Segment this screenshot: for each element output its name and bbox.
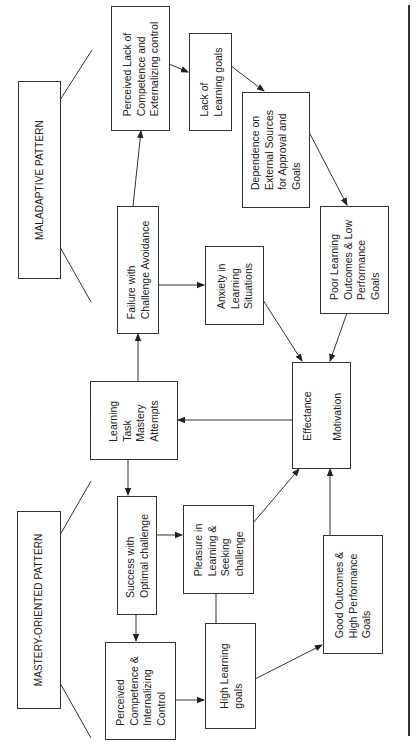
node-good-outcomes-text: Good Outcomes & High Performance Goals bbox=[333, 551, 374, 637]
node-perceived-competence-text: Perceived Competence & Internalizing Con… bbox=[114, 656, 168, 725]
arrow-anxiety-to-effectance bbox=[263, 300, 302, 361]
node-good-outcomes: Good Outcomes & High Performance Goals bbox=[323, 535, 383, 654]
node-anxiety: Anxiety in Learning Situations bbox=[205, 246, 264, 325]
arrow-high-goals-to-good bbox=[255, 645, 322, 679]
mastery-pattern-label: MASTERY-ORIENTED PATTERN bbox=[17, 511, 61, 709]
node-effectance-text: Effectance Motivation bbox=[292, 391, 351, 440]
node-perceived-competence: Perceived Competence & Internalizing Con… bbox=[105, 642, 176, 740]
arrow-lack-goals-to-dependence bbox=[231, 66, 264, 91]
page-edge-rule bbox=[408, 5, 410, 736]
node-dependence: Dependence on External Sources for Appro… bbox=[242, 92, 310, 208]
arrow-dependence-to-poor bbox=[309, 132, 347, 205]
maladaptive-callout-top bbox=[60, 50, 92, 100]
node-perceived-lack: Perceived Lack of Competence and Externa… bbox=[111, 6, 170, 131]
node-learning-task: Learning Task Mastery Attempts bbox=[90, 381, 178, 460]
mastery-callout-top bbox=[60, 481, 91, 535]
node-lack-goals: Lack of Learning goals bbox=[189, 33, 232, 131]
node-learning-task-text: Learning Task Mastery Attempts bbox=[107, 400, 161, 441]
mastery-callout-bottom bbox=[60, 683, 91, 738]
maladaptive-pattern-label: MALADAPTIVE PATTERN bbox=[18, 81, 61, 279]
node-poor-outcomes: Poor Learning Outcomes & Low Performance… bbox=[320, 206, 389, 314]
node-effectance-motivation: Effectance Motivation bbox=[292, 362, 351, 469]
node-perceived-lack-text: Perceived Lack of Competence and Externa… bbox=[120, 21, 161, 116]
arrow-failure-to-perceived-lack bbox=[133, 131, 141, 206]
node-lack-goals-text: Lack of Learning goals bbox=[197, 48, 224, 117]
node-success-text: Success with Optimal challenge bbox=[124, 513, 151, 597]
mastery-pattern-text: MASTERY-ORIENTED PATTERN bbox=[32, 534, 46, 687]
node-failure-text: Failure with Challenge Avoidance bbox=[125, 221, 152, 319]
node-dependence-text: Dependence on External Sources for Appro… bbox=[249, 110, 303, 190]
node-high-goals-text: High Learning goals bbox=[217, 643, 244, 708]
node-poor-outcomes-text: Poor Learning Outcomes & Low Performance… bbox=[328, 220, 382, 300]
maladaptive-callout-bottom bbox=[60, 247, 91, 302]
node-pleasure: Pleasure in Learning & Seeking challenge bbox=[183, 505, 254, 594]
node-high-goals: High Learning goals bbox=[205, 623, 256, 729]
node-success: Success with Optimal challenge bbox=[117, 496, 157, 615]
arrow-perceived-lack-to-lack-goals bbox=[169, 64, 188, 72]
node-failure: Failure with Challenge Avoidance bbox=[117, 206, 159, 334]
arrow-poor-to-effectance bbox=[330, 313, 347, 361]
maladaptive-pattern-text: MALADAPTIVE PATTERN bbox=[33, 120, 47, 240]
motivation-pattern-diagram: MALADAPTIVE PATTERN MASTERY-ORIENTED PAT… bbox=[0, 0, 416, 742]
arrow-pleasure-to-effectance bbox=[253, 469, 299, 523]
node-anxiety-text: Anxiety in Learning Situations bbox=[214, 262, 255, 308]
node-pleasure-text: Pleasure in Learning & Seeking challenge bbox=[192, 523, 246, 576]
